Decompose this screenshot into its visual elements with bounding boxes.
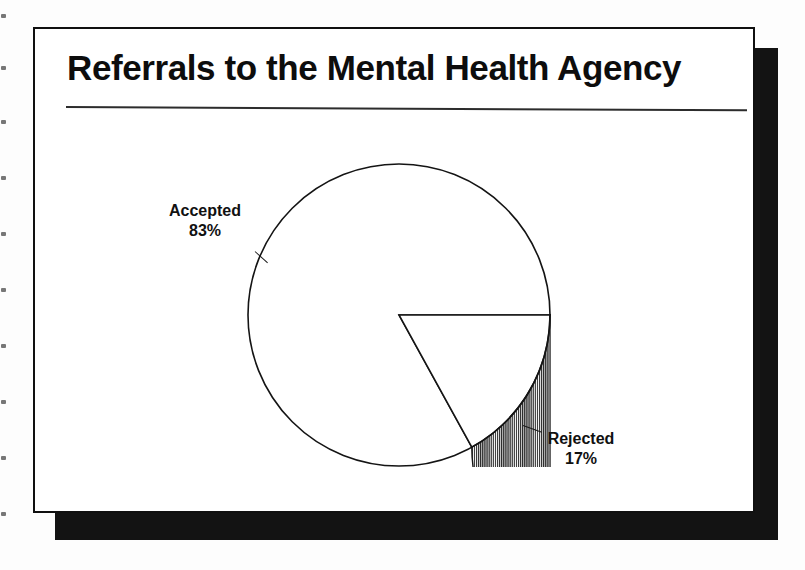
pie-svg bbox=[247, 163, 551, 467]
slide-page: Referrals to the Mental Health Agency bbox=[0, 0, 805, 570]
pie-label-rejected-percent: 17% bbox=[535, 449, 627, 469]
scan-edge-artifacts bbox=[0, 0, 10, 570]
pie-label-rejected-name: Rejected bbox=[548, 430, 615, 447]
pie-graphic bbox=[247, 163, 551, 467]
pie-label-accepted-percent: 83% bbox=[155, 221, 255, 241]
slide-card: Referrals to the Mental Health Agency bbox=[33, 27, 755, 513]
pie-chart: Accepted 83% Rejected 17% bbox=[35, 29, 757, 515]
pie-label-rejected: Rejected 17% bbox=[535, 429, 627, 468]
pie-label-accepted-name: Accepted bbox=[169, 202, 241, 219]
pie-label-accepted: Accepted 83% bbox=[155, 201, 255, 240]
